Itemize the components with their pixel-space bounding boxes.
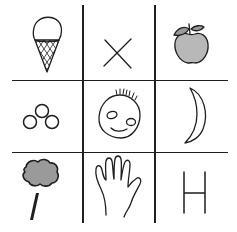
letter-h-glyph xyxy=(156,153,228,223)
cell-ice-cream xyxy=(12,5,82,79)
cell-letter-h xyxy=(156,153,228,223)
cell-three-circles xyxy=(12,81,82,151)
x-mark-icon xyxy=(84,5,154,79)
three-circles-icon xyxy=(12,81,82,151)
crescent-moon-icon xyxy=(156,81,228,151)
cell-crescent-moon xyxy=(156,81,228,151)
smiling-face-icon xyxy=(84,81,154,151)
cell-face xyxy=(84,81,154,151)
cell-apple xyxy=(156,5,228,79)
cell-tree xyxy=(12,153,82,223)
cell-x-mark xyxy=(84,5,154,79)
ice-cream-cone-icon xyxy=(12,5,82,79)
hand-icon xyxy=(84,153,154,223)
apple-icon xyxy=(156,5,228,79)
cell-hand xyxy=(84,153,154,223)
picture-grid xyxy=(0,0,237,232)
tree-icon xyxy=(12,153,82,223)
